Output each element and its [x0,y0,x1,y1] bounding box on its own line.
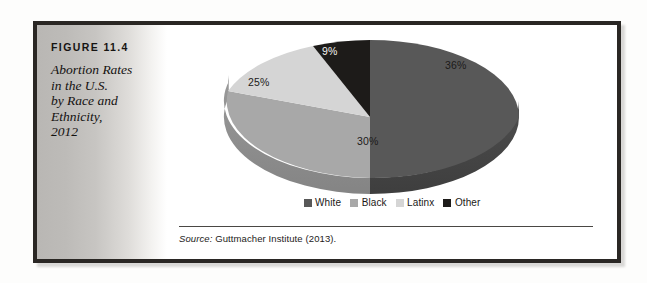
pie-label-white: 36% [445,59,467,71]
figure-title-line: 2012 [51,124,151,140]
figure-frame-inner: FIGURE 11.4 Abortion Rates in the U.S. b… [37,25,617,259]
legend-label: Black [362,197,387,208]
legend-item-other: Other [443,197,480,208]
caption-inner: FIGURE 11.4 Abortion Rates in the U.S. b… [51,41,159,140]
pie-chart: 36% 30% 25% 9% [205,29,535,204]
chart-area: 36% 30% 25% 9% White Black [167,25,617,259]
legend-item-latinx: Latinx [396,197,435,208]
pie-label-other: 9% [322,45,338,57]
figure-title: Abortion Rates in the U.S. by Race and E… [51,62,151,140]
source-line: Source: Guttmacher Institute (2013). [179,233,336,244]
source-label: Source: [179,233,212,244]
figure-root: FIGURE 11.4 Abortion Rates in the U.S. b… [0,0,647,283]
legend-swatch-icon [396,199,404,207]
legend-label: Other [455,197,481,208]
figure-title-line: by Race and [51,93,151,109]
pie-chart-svg [205,29,535,204]
figure-title-line: Abortion Rates [51,62,151,78]
legend-swatch-icon [350,199,358,207]
figure-frame: FIGURE 11.4 Abortion Rates in the U.S. b… [33,21,621,263]
chart-legend: White Black Latinx Other [167,197,617,208]
figure-title-line: Ethnicity, [51,109,151,125]
source-divider [179,226,593,227]
legend-label: Latinx [407,197,434,208]
pie-label-black: 30% [357,135,379,147]
figure-title-line: in the U.S. [51,78,151,94]
legend-item-white: White [304,197,342,208]
legend-swatch-icon [304,199,312,207]
pie-chart-canvas [205,29,535,204]
caption-panel: FIGURE 11.4 Abortion Rates in the U.S. b… [37,25,167,259]
source-text: Guttmacher Institute (2013). [215,233,336,244]
pie-label-latinx: 25% [248,76,270,88]
legend-label: White [315,197,341,208]
legend-swatch-icon [443,199,451,207]
figure-number: FIGURE 11.4 [51,41,159,53]
legend-item-black: Black [350,197,386,208]
